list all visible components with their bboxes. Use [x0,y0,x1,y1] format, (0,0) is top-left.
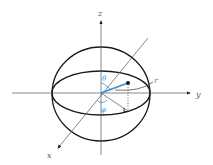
y-axis-label: y [195,90,201,99]
radius-label: r [154,76,159,85]
z-axis-label: z [97,9,103,18]
spherical-coordinates-diagram: z y x r θ φ [0,0,213,165]
theta-label: θ [102,75,107,83]
phi-arc [97,100,107,103]
x-axis-label: x [47,151,52,160]
phi-label: φ [101,106,106,114]
point-marker [126,81,130,85]
